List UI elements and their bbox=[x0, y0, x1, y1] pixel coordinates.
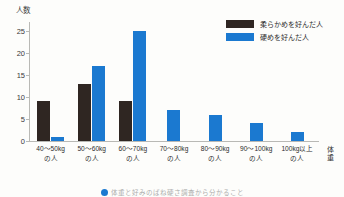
x-axis-labels: 40〜50kgの人50〜60kgの人60〜70kgの人70〜80kgの人80〜9… bbox=[30, 144, 318, 180]
x-axis-title-char-1: 体 bbox=[325, 146, 335, 154]
bar bbox=[133, 31, 146, 141]
footer-caption: 体重と好みのばね硬さ調査から分かること bbox=[0, 187, 344, 197]
x-axis-title: 体 重 bbox=[325, 146, 335, 162]
bar-group bbox=[71, 22, 112, 141]
y-tick-label: 25 bbox=[17, 26, 25, 35]
bar bbox=[250, 123, 263, 141]
x-axis-title-char-2: 重 bbox=[325, 154, 335, 162]
legend-swatch bbox=[226, 33, 254, 41]
y-tick-label: 5 bbox=[21, 114, 25, 123]
bullet-icon bbox=[101, 189, 108, 196]
legend-label: 硬めを好んだ人 bbox=[260, 32, 309, 42]
bar bbox=[119, 101, 132, 141]
bar bbox=[92, 66, 105, 141]
bar bbox=[291, 132, 304, 141]
bar-group bbox=[153, 22, 194, 141]
legend-label: 柔らかめを好んだ人 bbox=[260, 19, 323, 29]
footer-caption-text: 体重と好みのばね硬さ調査から分かること bbox=[111, 187, 244, 197]
bar bbox=[209, 115, 222, 141]
chart-legend: 柔らかめを好んだ人硬めを好んだ人 bbox=[226, 19, 323, 42]
y-axis-ticks: 0510152025 bbox=[0, 0, 29, 197]
bar-chart: 人数 0510152025 40〜50kgの人50〜60kgの人60〜70kgの… bbox=[0, 0, 344, 197]
x-tick-label: 100kg以上の人 bbox=[271, 144, 324, 164]
y-tick-label: 20 bbox=[17, 48, 25, 57]
bar bbox=[78, 84, 91, 141]
bar bbox=[51, 137, 64, 141]
legend-item: 硬めを好んだ人 bbox=[226, 32, 323, 42]
bar bbox=[167, 110, 180, 141]
x-axis-line bbox=[29, 141, 319, 142]
legend-swatch bbox=[226, 20, 254, 28]
bar-group bbox=[112, 22, 153, 141]
y-tick-label: 10 bbox=[17, 92, 25, 101]
y-tick-mark bbox=[26, 141, 30, 142]
y-tick-label: 15 bbox=[17, 70, 25, 79]
bar-group bbox=[30, 22, 71, 141]
bar bbox=[37, 101, 50, 141]
legend-item: 柔らかめを好んだ人 bbox=[226, 19, 323, 29]
